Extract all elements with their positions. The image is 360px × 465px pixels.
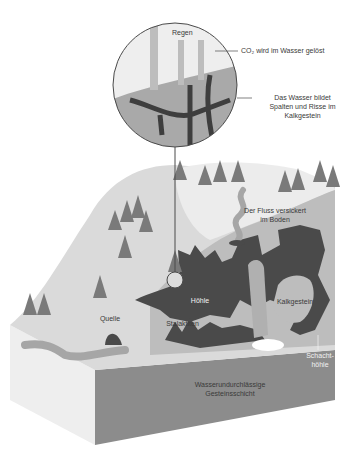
label-river-1: Der Fluss versickert [235,207,315,215]
label-cracks-3: Kalkgestein [255,112,350,120]
inset-magnifier [110,20,240,150]
water-pool-foam [252,339,284,351]
label-impermeable-2: Gesteinsschicht [185,390,275,398]
label-limestone: Kalkgestein [270,298,320,306]
label-cracks-1: Das Wasser bildet [255,94,350,102]
label-spring: Quelle [95,315,125,323]
label-shaft-2: höhle [300,361,340,369]
label-river-2: im Boden [235,216,315,224]
karst-diagram [0,0,360,465]
label-rain: Regen [172,29,193,37]
label-cracks-2: Spalten und Risse im [255,103,350,111]
inset-source-circle [167,272,183,288]
label-impermeable-1: Wasserundurchlässige [185,381,275,389]
label-cave: Höhle [180,297,220,305]
label-shaft-1: Schacht- [300,352,340,360]
label-stalactites: Stalaktiten [160,320,205,328]
sinkhole [229,240,245,246]
label-co2: CO₂ wird im Wasser gelöst [241,47,324,55]
